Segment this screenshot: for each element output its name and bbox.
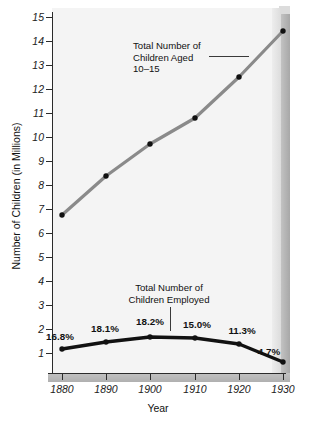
annotation-leader-line-aged bbox=[209, 56, 249, 57]
chart-figure: 15 14 13 12 11 10 9 8 7 6 5 4 3 2 1 1880… bbox=[0, 0, 316, 424]
percent-label: 15.0% bbox=[177, 319, 217, 330]
employed-data-point bbox=[59, 346, 64, 351]
aged-data-point bbox=[147, 141, 152, 146]
aged-data-point bbox=[192, 115, 197, 120]
annotation-line-2: Children Aged bbox=[133, 52, 228, 64]
percent-label: 16.8% bbox=[40, 331, 80, 342]
employed-data-point bbox=[103, 339, 108, 344]
percent-label: 18.1% bbox=[85, 323, 125, 334]
annotation-line-2: Children Employed bbox=[115, 294, 223, 306]
percent-label: 4.7% bbox=[249, 346, 289, 357]
aged-data-point bbox=[59, 212, 64, 217]
y-axis-title: Number of Children (in Millions) bbox=[10, 96, 22, 296]
employed-data-point bbox=[280, 359, 285, 364]
annotation-line-1: Total Number of bbox=[133, 40, 228, 52]
aged-data-point bbox=[103, 173, 108, 178]
annotation-children-aged: Total Number of Children Aged 10–15 bbox=[133, 40, 228, 75]
employed-data-point bbox=[192, 335, 197, 340]
annotation-line-1: Total Number of bbox=[115, 282, 223, 294]
annotation-line-3: 10–15 bbox=[133, 63, 228, 75]
annotation-children-employed: Total Number of Children Employed bbox=[115, 282, 223, 305]
employed-data-point bbox=[147, 334, 152, 339]
annotation-leader-line-employed bbox=[170, 307, 171, 331]
percent-label: 11.3% bbox=[222, 325, 262, 336]
aged-data-point bbox=[280, 28, 285, 33]
x-axis-title: Year bbox=[108, 402, 208, 414]
aged-data-point bbox=[236, 74, 241, 79]
percent-label: 18.2% bbox=[130, 316, 170, 327]
employed-data-point bbox=[236, 341, 241, 346]
